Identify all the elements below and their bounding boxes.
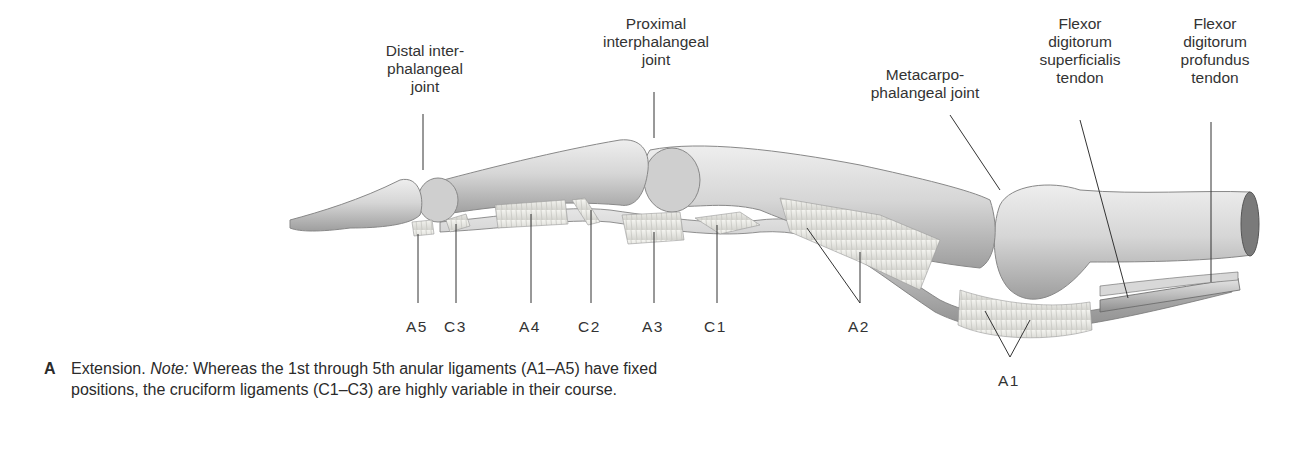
- finger-ligament-figure: Distal inter- phalangeal joint Proximal …: [0, 0, 1305, 474]
- label-metacarpophalangeal-joint: Metacarpo- phalangeal joint: [850, 66, 1000, 102]
- figure-caption: A Extension. Note: Whereas the 1st throu…: [44, 358, 664, 400]
- caption-body: Extension. Note: Whereas the 1st through…: [71, 358, 664, 400]
- distal-phalanx: [290, 179, 422, 231]
- label-c3: C3: [444, 318, 467, 336]
- label-a4: A4: [519, 318, 541, 336]
- label-a2: A2: [848, 318, 870, 336]
- label-c2: C2: [578, 318, 601, 336]
- label-a5: A5: [406, 318, 428, 336]
- a3-ligament: [622, 212, 684, 244]
- label-proximal-interphalangeal-joint: Proximal interphalangeal joint: [576, 15, 736, 69]
- caption-lead: Extension.: [71, 360, 146, 377]
- label-a1: A1: [998, 372, 1020, 390]
- label-c1: C1: [704, 318, 727, 336]
- caption-note-label: Note:: [150, 360, 188, 377]
- label-flexor-digitorum-superficialis-tendon: Flexor digitorum superficialis tendon: [1025, 15, 1135, 87]
- label-a3: A3: [642, 318, 664, 336]
- label-distal-interphalangeal-joint: Distal inter- phalangeal joint: [360, 42, 490, 96]
- a5-ligament: [412, 220, 434, 236]
- caption-panel-letter: A: [44, 358, 56, 379]
- label-flexor-digitorum-profundus-tendon: Flexor digitorum profundus tendon: [1160, 15, 1270, 87]
